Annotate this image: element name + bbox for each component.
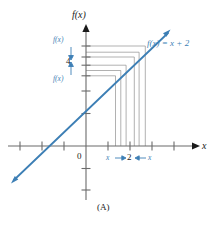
x-axis (8, 142, 200, 149)
x-left-approach-label: x (106, 154, 109, 162)
origin-label: 0 (77, 152, 82, 161)
y-upper-bound-label: f(x) (53, 36, 63, 44)
y-axis-label: f(x) (72, 10, 86, 20)
figure-container: f(x) x 0 f(x) 4 f(x) x 2 x f(x) = x + 2 … (0, 0, 215, 225)
x-right-approach-label: x (148, 154, 151, 162)
curve-equation-label: f(x) = x + 2 (147, 39, 189, 48)
x-axis-label: x (202, 141, 206, 151)
figure-caption: (A) (97, 203, 110, 212)
y-axis-arrowhead (82, 24, 89, 32)
y-lower-bound-label: f(x) (53, 75, 63, 83)
graph-canvas (0, 0, 215, 225)
function-line (11, 30, 171, 184)
y-center-value-label: 4 (66, 57, 71, 66)
x-center-value-label: 2 (127, 153, 132, 162)
horizontal-guide-lines (86, 46, 145, 76)
vertical-guide-lines (116, 46, 146, 146)
x-axis-arrowhead (192, 142, 200, 149)
